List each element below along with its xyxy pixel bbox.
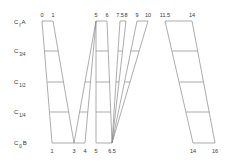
top-tick-label: 8: [124, 12, 127, 18]
top-tick-label: 0: [40, 12, 43, 18]
bottom-tick-label: 16: [212, 148, 218, 154]
top-tick-label: 6: [105, 12, 108, 18]
top-tick-label: 1: [51, 12, 54, 18]
row-label: C3/4: [14, 48, 26, 57]
row-label: C1/2: [14, 79, 26, 88]
top-tick-label: 5: [94, 12, 97, 18]
bottom-tick-label: 4: [83, 148, 86, 154]
row-label: CfA: [14, 19, 26, 28]
row-label: C1/4: [14, 109, 26, 118]
activity-schedule-diagram: CfAC3/4C1/2C1/4C0B 01567.5891011.514 134…: [0, 0, 226, 163]
bottom-tick-label: 14: [190, 148, 196, 154]
row-labels: CfAC3/4C1/2C1/4C0B: [14, 19, 27, 149]
top-tick-label: 10: [145, 12, 151, 18]
bottom-tick-label: 3: [72, 148, 75, 154]
shapes: [42, 21, 215, 143]
bottom-tick-label: 6.5: [108, 148, 116, 154]
row-label: C0B: [14, 140, 27, 149]
bottom-axis-labels: 13456.51416: [50, 148, 218, 154]
top-axis-labels: 01567.5891011.514: [40, 12, 195, 18]
top-tick-label: 11.5: [160, 12, 170, 18]
top-tick-label: 7.5: [116, 12, 124, 18]
bottom-tick-label: 5: [94, 148, 97, 154]
bottom-tick-label: 1: [50, 148, 53, 154]
top-tick-label: 9: [135, 12, 138, 18]
top-tick-label: 14: [189, 12, 195, 18]
